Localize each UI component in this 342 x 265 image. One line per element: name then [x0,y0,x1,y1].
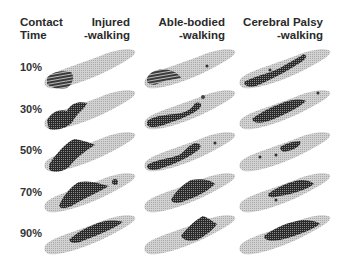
plot-cerebral-palsy-50 [239,132,330,171]
plot-cerebral-palsy-30 [239,90,330,129]
plot-able-bodied-10 [144,49,235,88]
plot-cerebral-palsy-90 [239,215,330,254]
plot-able-bodied-30 [144,90,235,129]
plot-injured-70 [44,173,135,212]
plot-able-bodied-90 [144,215,235,254]
plot-cerebral-palsy-70 [239,173,330,212]
plot-injured-90 [44,215,135,254]
plot-cerebral-palsy-10 [239,49,330,88]
plot-able-bodied-50 [144,132,235,171]
plot-injured-30 [44,90,135,129]
pressure-plot-grid [0,0,342,265]
plot-injured-50 [44,132,135,171]
plot-able-bodied-70 [144,173,235,212]
plot-injured-10 [44,49,135,88]
